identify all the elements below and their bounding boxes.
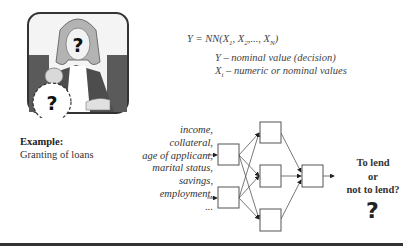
hidden-node	[260, 122, 281, 143]
input-features-list: income, collateral, age of applicant, ma…	[142, 124, 213, 214]
input-feature: collateral,	[142, 137, 213, 150]
input-feature: savings,	[142, 175, 213, 188]
formula-close: )	[275, 33, 279, 44]
hidden-node	[260, 209, 281, 231]
output-node	[302, 165, 323, 187]
svg-text:?: ?	[72, 34, 83, 56]
x-def-text: – numeric or nominal values	[223, 65, 346, 76]
input-node	[218, 187, 239, 208]
input-feature: employment,	[142, 188, 213, 201]
formula-sep: ,...,	[248, 33, 264, 44]
loan-applicant-illustration: ? ?	[26, 10, 130, 118]
question-mark-icon: ?	[366, 198, 379, 223]
decision-line: To lend	[338, 156, 403, 170]
example-label: Example:	[20, 136, 63, 147]
formula-nn: = NN(	[193, 33, 223, 44]
decision-line: not to lend?	[338, 183, 403, 197]
svg-text:?: ?	[46, 92, 57, 114]
applicant-question-icon: ? ?	[26, 10, 130, 118]
neural-network-diagram	[205, 115, 345, 240]
hidden-node	[260, 165, 281, 187]
input-feature: marital status,	[142, 162, 213, 175]
x-definition: Xi – numeric or nominal values	[215, 65, 347, 79]
input-feature: age of applicant,	[142, 150, 213, 163]
decision-label: To lend or not to lend?	[338, 156, 403, 197]
input-feature: income,	[142, 124, 213, 137]
example-text: Granting of loans	[20, 149, 94, 160]
input-feature: ...	[142, 201, 213, 214]
y-definition: Y – nominal value (decision)	[215, 52, 336, 63]
nn-formula: Y = NN(X1, X2,..., XN)	[187, 33, 278, 47]
decision-line: or	[338, 170, 403, 184]
input-node	[218, 144, 239, 165]
